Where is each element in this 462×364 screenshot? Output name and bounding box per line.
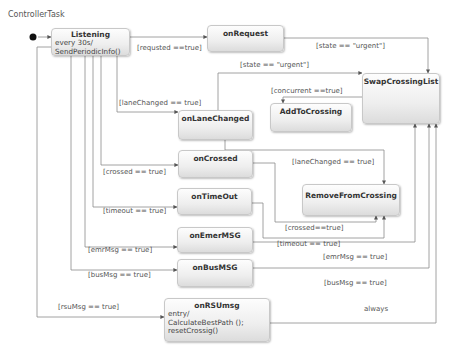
state-name: onRequest bbox=[208, 26, 283, 38]
initial-state-dot bbox=[30, 34, 37, 41]
transition-label-lane-changed-remove: [laneChanged == true] bbox=[292, 158, 374, 166]
state-diagram: ControllerTask Listening every 30s/ Send… bbox=[0, 0, 462, 364]
transition-label-lane-changed-in: [laneChanged == true] bbox=[119, 99, 201, 107]
transition-label-crossed-remove: [crossed==true] bbox=[285, 224, 343, 232]
state-name: AddToCrossing bbox=[271, 104, 351, 116]
transition-label-timeout-remove: [timeout == true] bbox=[277, 240, 340, 248]
state-remove-from-crossing[interactable]: RemoveFromCrossing bbox=[302, 184, 400, 216]
state-action: SendPeriodicInfo() bbox=[52, 48, 129, 57]
transition-label-crossed-in: [crossed == true] bbox=[103, 168, 166, 176]
transition-label-timeout-in: [timeout == true] bbox=[103, 207, 166, 215]
transition-label-emr-in: [emrMsg == true] bbox=[88, 246, 152, 254]
transition-label-emr-swap: [emrMsg == true] bbox=[323, 253, 387, 261]
state-on-bus-msg[interactable]: onBusMSG bbox=[177, 259, 253, 287]
state-name: SwapCrossingList bbox=[363, 74, 439, 86]
transition-label-requested: [requsted ==true] bbox=[137, 44, 202, 52]
state-on-request[interactable]: onRequest bbox=[207, 25, 284, 52]
state-name: onLaneChanged bbox=[179, 111, 252, 123]
state-on-timeout[interactable]: onTimeOut bbox=[177, 188, 252, 215]
state-name: onBusMSG bbox=[178, 260, 252, 272]
transition-label-rsu-in: [rsuMsg == true] bbox=[58, 303, 119, 311]
transition-label-lane-urgent: [state == "urgent"] bbox=[240, 61, 309, 69]
transition-label-request-urgent: [state == "urgent"] bbox=[316, 42, 385, 50]
state-listening[interactable]: Listening every 30s/ SendPeriodicInfo() bbox=[51, 28, 130, 56]
state-add-to-crossing[interactable]: AddToCrossing bbox=[270, 103, 352, 132]
diagram-title: ControllerTask bbox=[8, 10, 65, 19]
state-on-emer-msg[interactable]: onEmerMSG bbox=[177, 227, 253, 253]
transition-label-always: always bbox=[364, 305, 388, 313]
state-name: RemoveFromCrossing bbox=[303, 185, 399, 200]
state-name: onTimeOut bbox=[178, 189, 251, 201]
transition-label-bus-swap: [busMsg == true] bbox=[324, 279, 387, 287]
state-action: resetCrossig() bbox=[165, 327, 269, 336]
state-on-crossed[interactable]: onCrossed bbox=[178, 150, 253, 178]
state-name: onCrossed bbox=[179, 151, 252, 163]
state-swap-crossing-list[interactable]: SwapCrossingList bbox=[362, 73, 440, 124]
transition-label-bus-in: [busMsg == true] bbox=[88, 271, 151, 279]
state-on-lane-changed[interactable]: onLaneChanged bbox=[178, 110, 253, 140]
state-name: onEmerMSG bbox=[178, 228, 252, 240]
state-on-rsu-msg[interactable]: onRSUmsg entry/ CalculateBestPath (); re… bbox=[164, 298, 270, 342]
transition-label-concurrent: [concurrent ==true] bbox=[271, 87, 343, 95]
